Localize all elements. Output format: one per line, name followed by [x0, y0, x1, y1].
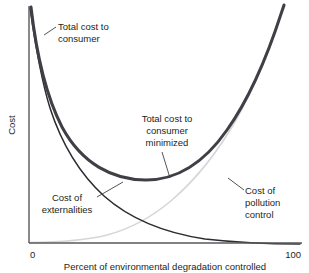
chart-figure: 0 100 Percent of environmental degradati… — [0, 0, 309, 273]
x-axis-title: Percent of environmental degradation con… — [64, 261, 266, 272]
x-axis-tick-0: 0 — [30, 249, 35, 260]
annotation-minimized-line-3: minimized — [146, 137, 189, 148]
cost-vs-degradation-chart: 0 100 Percent of environmental degradati… — [0, 0, 309, 273]
annotation-pollution-line-3: control — [245, 209, 274, 220]
annotation-total-cost-line-2: consumer — [58, 33, 100, 44]
annotation-minimized-line-2: consumer — [146, 125, 188, 136]
annotation-externalities-line-1: Cost of — [52, 192, 82, 203]
y-axis-title: Cost — [6, 115, 17, 135]
annotation-minimized-line-1: Total cost to — [142, 113, 193, 124]
annotation-pollution-line-2: pollution — [245, 197, 280, 208]
annotation-externalities-line-2: externalities — [42, 204, 93, 215]
annotation-total-cost-line-1: Total cost to — [58, 21, 109, 32]
annotation-pollution-line-1: Cost of — [245, 185, 275, 196]
x-axis-tick-100: 100 — [285, 249, 301, 260]
